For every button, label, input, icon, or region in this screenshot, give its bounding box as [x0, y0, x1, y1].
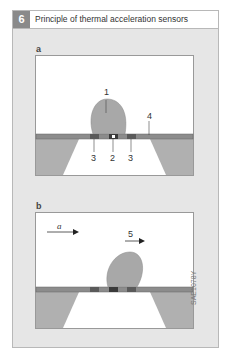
figure-code: SAE1078Y [190, 271, 197, 305]
callout-4: 4 [147, 111, 152, 121]
panel-b-diagram: a 5 [35, 212, 194, 329]
figure-title: Principle of thermal acceleration sensor… [35, 11, 188, 28]
callout-3-left: 3 [91, 153, 96, 163]
callout-3-right: 3 [128, 153, 133, 163]
callout-1: 1 [104, 87, 109, 97]
panel-a-diagram: 1 3 2 3 4 [35, 55, 194, 176]
callout-2: 2 [110, 153, 115, 163]
panel-b-label: b [36, 201, 42, 211]
figure-number: 6 [13, 11, 30, 28]
panel-a-label: a [36, 44, 41, 54]
figure-header: 6 Principle of thermal acceleration sens… [13, 11, 218, 29]
callout-5: 5 [128, 229, 133, 239]
acceleration-symbol: a [57, 221, 62, 231]
